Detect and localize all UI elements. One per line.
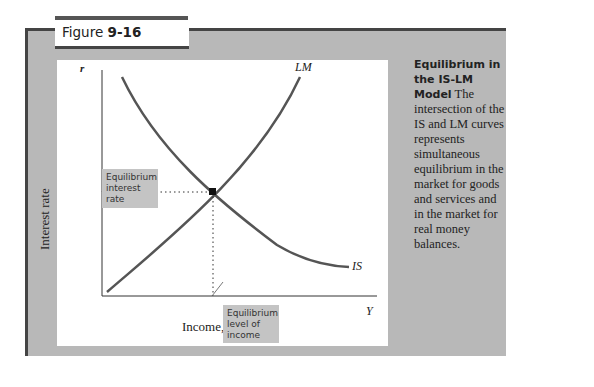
figure-caption: Equilibrium in the IS-LM Model The inter…: [414, 57, 506, 252]
plot-area: r LM IS Y Income, output Equilibrium int…: [57, 60, 388, 346]
caption-body: The intersection of the IS and LM curves…: [414, 87, 504, 251]
figure-tab: Figure 9-16: [55, 20, 189, 49]
y-axis-label: Interest rate: [37, 188, 53, 250]
callout-equilibrium-income: Equilibrium level of income: [223, 305, 279, 343]
figure-label: Figure 9-16: [62, 24, 141, 40]
lm-label: LM: [295, 60, 312, 75]
is-label: IS: [352, 259, 362, 274]
y-axis-symbol: Y: [366, 304, 373, 319]
equilibrium-point: [209, 188, 216, 195]
r-axis-symbol: r: [80, 62, 84, 74]
callout-equilibrium-interest-rate: Equilibrium interest rate: [102, 169, 158, 208]
